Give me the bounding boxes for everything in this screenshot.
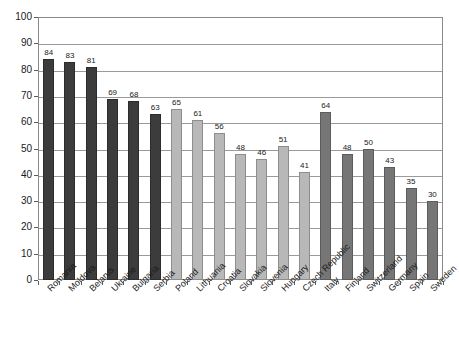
x-axis-tick-mark (422, 281, 423, 285)
bar-romania (43, 59, 54, 280)
x-axis-tick-mark (251, 281, 252, 285)
bar-slovakia (235, 154, 246, 280)
bar-lithuania (192, 120, 203, 280)
bar-croatia (214, 133, 225, 280)
bar-value-label: 64 (314, 101, 338, 110)
x-axis-tick-mark (38, 281, 39, 285)
y-axis-tick-label: 20 (4, 222, 32, 232)
y-axis-tick-label: 0 (4, 275, 32, 285)
y-axis-tick-mark (34, 122, 38, 123)
bar-value-label: 61 (186, 109, 210, 118)
y-axis-tick-label: 40 (4, 170, 32, 180)
x-axis-tick-mark (81, 281, 82, 285)
x-axis-tick-mark (230, 281, 231, 285)
x-axis-tick-mark (59, 281, 60, 285)
bar-value-label: 68 (122, 90, 146, 99)
y-axis-tick-label: 50 (4, 144, 32, 154)
x-axis-tick-mark (294, 281, 295, 285)
bar-sweden (427, 201, 438, 280)
x-axis-tick-mark (145, 281, 146, 285)
bar-belarus (86, 67, 97, 280)
y-axis-tick-mark (34, 96, 38, 97)
y-axis-tick-label: 30 (4, 196, 32, 206)
x-axis-tick-mark (102, 281, 103, 285)
x-axis-tick-mark (123, 281, 124, 285)
y-axis-tick-mark (34, 43, 38, 44)
bar-moldova (64, 62, 75, 280)
x-axis-tick-mark (315, 281, 316, 285)
bar-finland (342, 154, 353, 280)
bar-value-label: 50 (356, 138, 380, 147)
bar-bulgaria (128, 101, 139, 280)
x-axis-tick-mark (358, 281, 359, 285)
x-axis-tick-mark (166, 281, 167, 285)
y-axis-tick-label: 70 (4, 91, 32, 101)
y-axis-tick-mark (34, 70, 38, 71)
bar-value-label: 35 (399, 177, 423, 186)
y-axis-tick-label: 10 (4, 249, 32, 259)
bar-value-label: 51 (271, 135, 295, 144)
x-axis-tick-mark (379, 281, 380, 285)
bar-poland (171, 109, 182, 280)
x-axis-tick-mark (336, 281, 337, 285)
y-axis-tick-mark (34, 254, 38, 255)
y-axis-tick-mark (34, 175, 38, 176)
y-axis-tick-label: 100 (4, 12, 32, 22)
bar-serbia (150, 114, 161, 280)
bars-layer: 84838169686365615648465141644850433530 (38, 17, 443, 280)
x-axis-tick-mark (400, 281, 401, 285)
y-axis-tick-mark (34, 227, 38, 228)
bar-value-label: 65 (165, 98, 189, 107)
x-axis-tick-mark (209, 281, 210, 285)
x-axis-tick-mark (187, 281, 188, 285)
x-axis-tick-mark (443, 281, 444, 285)
bar-value-label: 56 (207, 122, 231, 131)
y-axis-tick-label: 60 (4, 117, 32, 127)
y-axis-tick-label: 90 (4, 38, 32, 48)
bar-italy (320, 112, 331, 280)
y-axis-tick-mark (34, 201, 38, 202)
bar-value-label: 46 (250, 148, 274, 157)
x-axis-tick-mark (272, 281, 273, 285)
y-axis-tick-label: 80 (4, 65, 32, 75)
bar-ukraine (107, 99, 118, 280)
y-axis-tick-mark (34, 280, 38, 281)
bar-switzerland (363, 149, 374, 281)
bar-value-label: 30 (420, 190, 444, 199)
bar-value-label: 41 (292, 161, 316, 170)
bar-value-label: 81 (79, 56, 103, 65)
y-axis-tick-mark (34, 17, 38, 18)
bar-value-label: 43 (378, 156, 402, 165)
y-axis-tick-mark (34, 149, 38, 150)
bar-hungary (278, 146, 289, 280)
